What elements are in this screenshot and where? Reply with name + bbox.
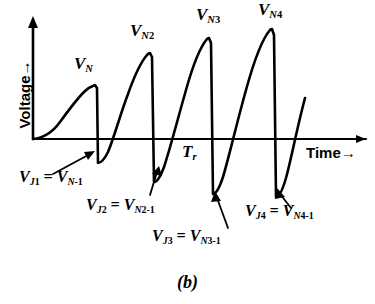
y-axis-label-text: Voltage — [16, 75, 33, 128]
valley-label-1-equals: = — [44, 168, 53, 185]
valley-label-3: VJ3 = VN3-1 — [152, 228, 221, 246]
valley-label-1-lhs-subnumber: 1 — [35, 176, 40, 187]
y-axis-label: Voltage→ — [16, 49, 33, 141]
peak-label-2-base: V — [130, 21, 141, 40]
peak-label-1-subletter: N — [85, 63, 93, 74]
valley-label-3-rhs-base: V — [190, 227, 201, 244]
valley-label-2-rhs-base: V — [124, 196, 135, 213]
valley-label-2-rhs-subletter: N — [134, 204, 141, 215]
valley-label-2-rhs-subtail: -1 — [146, 204, 154, 215]
valley-label-1-rhs-subletter: N — [67, 176, 74, 187]
peak-label-3-subletter: N — [207, 14, 215, 25]
peak-label-4-subnumber: 4 — [277, 9, 282, 20]
time-axis-arrowhead — [356, 135, 366, 143]
voltage-axis-arrowhead — [28, 16, 38, 28]
valley-label-4-rhs-base: V — [283, 202, 294, 219]
valley-label-2-equals: = — [111, 196, 120, 213]
peak-label-3: VN3 — [196, 6, 220, 25]
valley-label-3-equals: = — [177, 227, 186, 244]
peak-label-2-subnumber: 2 — [149, 30, 154, 41]
period-symbol: T — [182, 142, 192, 161]
valley-label-1: VJ1 = VN-1 — [19, 169, 83, 187]
valley-label-1-lhs-base: V — [19, 168, 30, 185]
period-subscript: r — [192, 151, 196, 162]
valley-label-1-rhs-base: V — [57, 168, 68, 185]
peak-label-3-subnumber: 3 — [215, 14, 220, 25]
peak-label-4: VN4 — [258, 1, 282, 20]
valley-label-3-lhs-base: V — [152, 227, 163, 244]
x-axis-label-arrow: → — [341, 144, 356, 161]
valley-label-2: VJ2 = VN2-1 — [86, 197, 155, 215]
figure-caption: (b) — [0, 272, 375, 293]
x-axis-label-text: Time — [306, 144, 341, 161]
peak-label-4-base: V — [258, 0, 269, 19]
peak-label-1-base: V — [74, 54, 85, 73]
valley-label-3-rhs-subtail: -1 — [212, 235, 220, 246]
annotation-arrow-3 — [217, 198, 228, 228]
valley-label-3-rhs-subletter: N — [200, 235, 207, 246]
peak-label-1: VN — [74, 55, 93, 74]
valley-label-3-lhs-subnumber: 3 — [168, 235, 173, 246]
period-marker-label: Tr — [182, 143, 197, 162]
valley-label-1-rhs-subtail: -1 — [75, 176, 83, 187]
valley-label-4-lhs-base: V — [245, 202, 256, 219]
waveform-figure: Voltage→ Time→ Tr VN VN2 VN3 VN4 VJ1 = V… — [0, 0, 375, 304]
peak-label-2: VN2 — [130, 22, 154, 41]
valley-label-2-lhs-base: V — [86, 196, 97, 213]
x-axis-label: Time→ — [306, 145, 356, 160]
peak-label-3-base: V — [196, 5, 207, 24]
valley-label-2-lhs-subnumber: 2 — [102, 204, 107, 215]
valley-label-4: VJ4 = VN4-1 — [245, 203, 314, 221]
valley-label-4-lhs-subnumber: 4 — [261, 210, 266, 221]
y-axis-label-arrow: → — [16, 60, 33, 75]
valley-label-4-rhs-subtail: -1 — [305, 210, 313, 221]
valley-label-4-rhs-subletter: N — [293, 210, 300, 221]
peak-label-4-subletter: N — [269, 9, 277, 20]
peak-label-2-subletter: N — [141, 30, 149, 41]
valley-label-4-equals: = — [270, 202, 279, 219]
